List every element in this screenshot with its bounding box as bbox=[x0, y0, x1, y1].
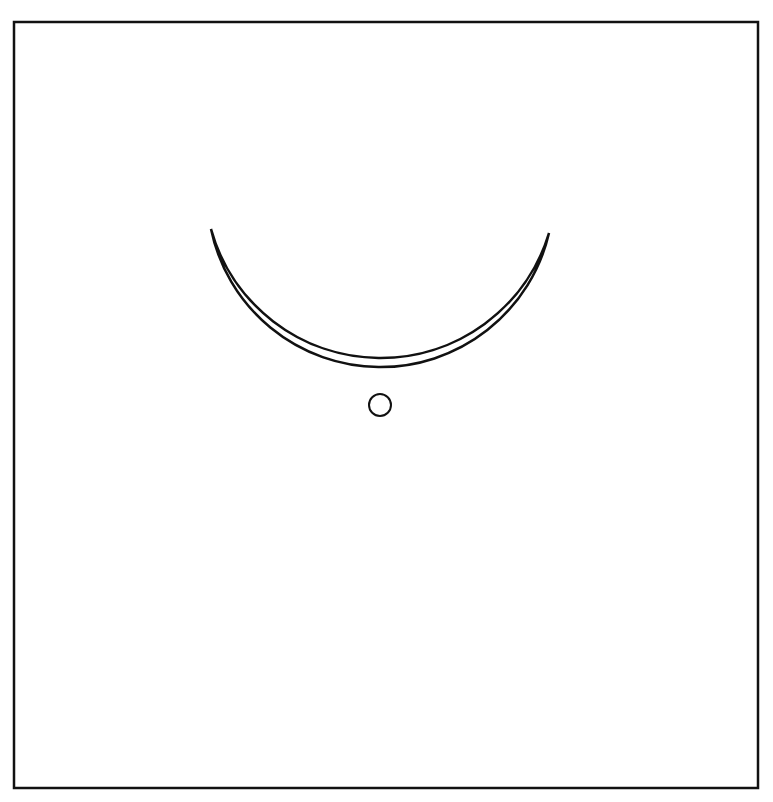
small-circle-dot bbox=[369, 394, 391, 416]
diagram-canvas bbox=[0, 0, 773, 802]
crescent-shape bbox=[211, 229, 549, 367]
diagram-border bbox=[14, 22, 758, 788]
